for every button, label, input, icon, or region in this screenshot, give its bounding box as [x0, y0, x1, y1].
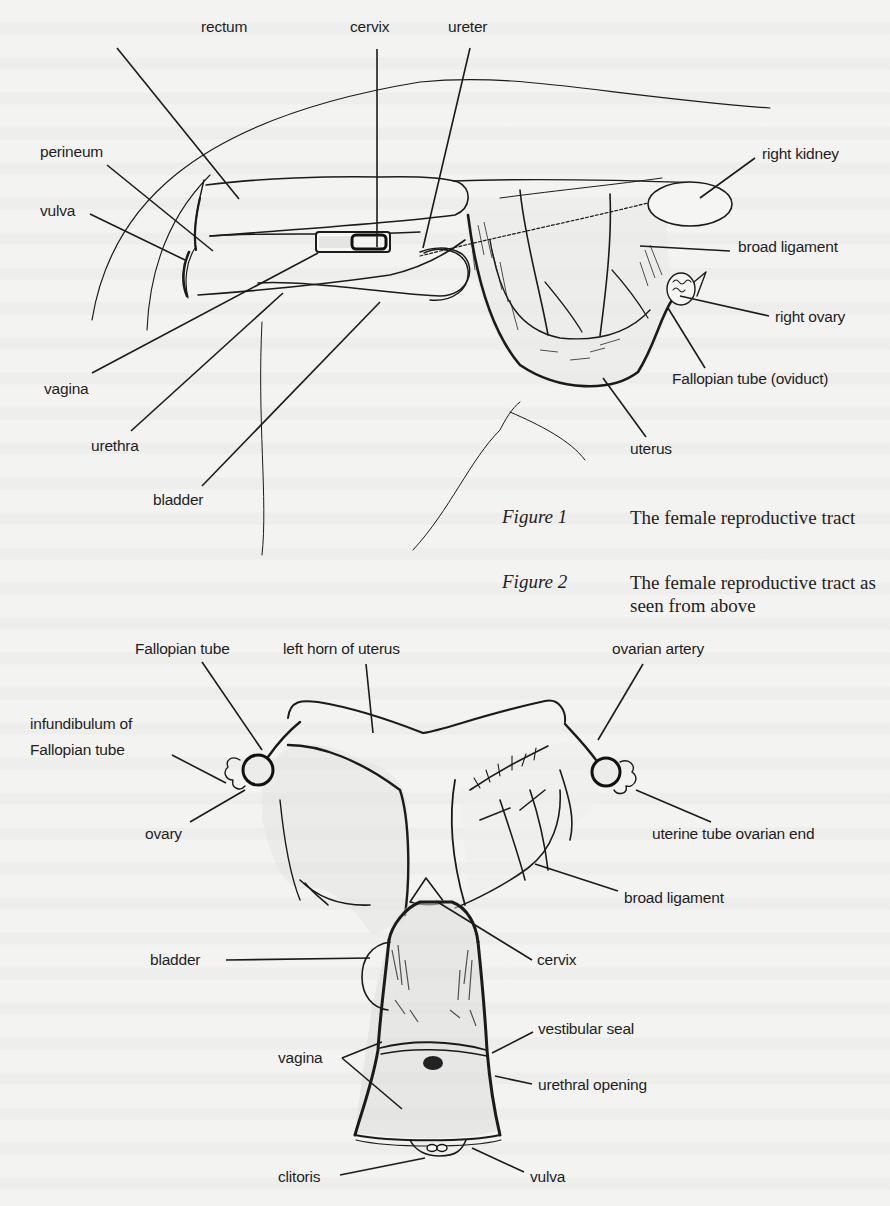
leader-line-fallopian-tube-oviduct: [668, 308, 705, 368]
leader-line-right-kidney: [700, 158, 755, 198]
label-urethra: urethra: [91, 437, 139, 455]
figure1-caption-text: The female reproductive tract: [630, 506, 890, 529]
label-perineum: perineum: [40, 143, 103, 161]
leader-line-bladder-2: [226, 958, 370, 960]
thigh-contour-left: [261, 322, 264, 555]
label-left-horn-of-uterus: left horn of uterus: [283, 640, 400, 658]
leader-line-right-ovary: [680, 296, 769, 316]
figure2-caption-label: Figure 2: [502, 571, 567, 593]
label-bladder: bladder: [153, 491, 203, 509]
leader-line-vulva: [90, 214, 185, 260]
leader-line-ovarian-artery: [598, 664, 643, 740]
label-cervix-2: cervix: [537, 951, 576, 969]
label-cervix: cervix: [350, 18, 389, 36]
leader-line-fallopian-tube: [202, 662, 262, 750]
leader-line-vagina: [92, 253, 318, 373]
leader-line-urethral-opening: [495, 1076, 532, 1084]
leader-line-broad-ligament-2: [535, 864, 618, 891]
label-fallopian-tube: Fallopian tube: [135, 640, 230, 658]
label-infundibulum-of-fallopian-tube: infundibulum of Fallopian tube: [30, 711, 180, 763]
label-ovarian-artery: ovarian artery: [612, 640, 704, 658]
leader-line-infundibulum-of-fallopian-tube: [172, 755, 226, 783]
leader-line-vulva-2: [472, 1148, 524, 1172]
figure1-drawing: [92, 80, 770, 555]
label-right-kidney: right kidney: [762, 145, 839, 163]
figure2-caption-text: The female reproductive tract as seen fr…: [630, 571, 890, 617]
label-rectum: rectum: [201, 18, 247, 36]
leader-line-bladder: [202, 302, 380, 486]
leader-line-ureter: [423, 48, 470, 248]
leader-line-uterine-tube-ovarian-end: [636, 790, 711, 822]
textbook-page: rectum cervix ureter perineum vulva righ…: [0, 0, 890, 1206]
label-uterine-tube-ovarian-end: uterine tube ovarian end: [652, 825, 814, 843]
figure1-caption-label: Figure 1: [502, 506, 567, 528]
leader-line-clitoris: [340, 1158, 425, 1175]
label-vagina-2: vagina: [278, 1049, 322, 1067]
label-broad-ligament: broad ligament: [738, 238, 838, 256]
label-vulva: vulva: [40, 202, 75, 220]
leader-line-urethra: [131, 293, 283, 431]
label-vestibular-seal: vestibular seal: [538, 1020, 634, 1038]
leader-line-vestibular-seal: [492, 1032, 533, 1053]
label-right-ovary: right ovary: [775, 308, 845, 326]
label-ureter: ureter: [448, 18, 487, 36]
leader-line-rectum: [117, 48, 239, 199]
label-clitoris: clitoris: [278, 1168, 320, 1186]
leader-line-ovary: [190, 790, 245, 822]
leader-line-uterus: [603, 378, 646, 437]
label-vulva-2: vulva: [530, 1168, 565, 1186]
label-ovary: ovary: [145, 825, 182, 843]
label-bladder-2: bladder: [150, 951, 200, 969]
label-vagina: vagina: [44, 380, 88, 398]
leader-line-left-horn-of-uterus: [366, 664, 373, 733]
label-urethral-opening: urethral opening: [538, 1076, 647, 1094]
label-broad-ligament-2: broad ligament: [624, 889, 724, 907]
label-uterus: uterus: [630, 440, 672, 458]
label-fallopian-tube-oviduct: Fallopian tube (oviduct): [672, 370, 828, 388]
